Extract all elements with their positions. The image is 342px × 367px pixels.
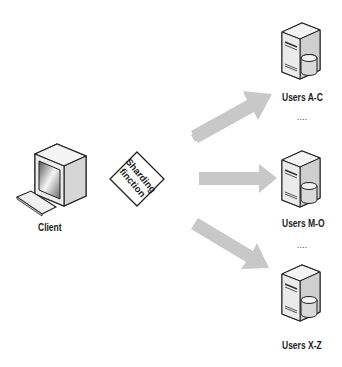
arrow-to-users-m-o bbox=[199, 164, 277, 193]
arrow-to-users-x-z bbox=[191, 218, 269, 269]
arrow-to-users-a-c bbox=[191, 91, 272, 143]
server-database-icon bbox=[276, 148, 326, 208]
server-node-m-o bbox=[276, 148, 326, 208]
server-label-x-z: Users X-Z bbox=[282, 340, 322, 351]
server-node-x-z bbox=[276, 262, 326, 322]
ellipsis-1: .... bbox=[297, 112, 307, 122]
server-label-a-c: Users A-C bbox=[282, 92, 323, 103]
server-database-icon bbox=[276, 20, 326, 80]
ellipsis-2: .... bbox=[297, 240, 307, 250]
server-label-m-o: Users M-O bbox=[282, 218, 325, 229]
server-node-a-c bbox=[276, 20, 326, 80]
server-database-icon bbox=[276, 262, 326, 322]
